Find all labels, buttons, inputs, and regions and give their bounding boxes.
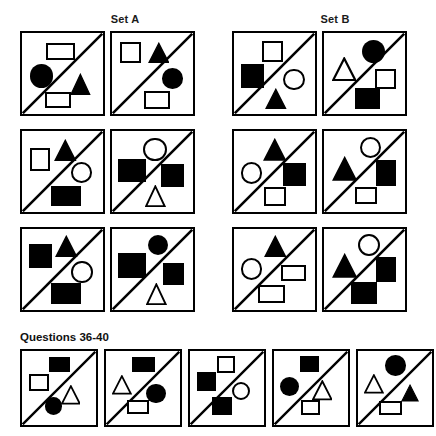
outline-circle-shape xyxy=(360,137,382,159)
panel-set-a-row1-col1[interactable] xyxy=(20,31,105,116)
panel-set-a-row2-col1[interactable] xyxy=(20,129,105,214)
outline-square-shape xyxy=(144,91,170,109)
outline-square-shape xyxy=(262,41,283,62)
outline-square-shape xyxy=(29,374,50,390)
panel-shapes xyxy=(22,131,103,212)
outline-rectangle-shape xyxy=(379,401,401,416)
panel-shapes xyxy=(112,229,193,310)
outline-square-shape xyxy=(301,400,320,415)
outline-square-shape xyxy=(375,69,396,90)
filled-square-shape xyxy=(161,164,184,187)
outline-triangle-shape xyxy=(364,374,384,394)
answer-option-1[interactable] xyxy=(20,349,98,427)
outline-square-shape xyxy=(120,42,141,63)
filled-square-shape xyxy=(283,163,306,186)
filled-square-shape xyxy=(241,64,265,88)
filled-triangle-shape xyxy=(264,235,287,258)
filled-rectangle-shape xyxy=(118,253,146,277)
outline-triangle-shape xyxy=(312,380,333,401)
panel-set-b-row2-col2[interactable] xyxy=(322,129,407,214)
outline-triangle-shape xyxy=(145,185,166,208)
panel-set-b-row3-col1[interactable] xyxy=(232,227,317,312)
filled-square-shape xyxy=(376,160,396,185)
panel-set-b-row1-col1[interactable] xyxy=(232,31,317,116)
filled-triangle-shape xyxy=(332,156,357,181)
outline-square-shape xyxy=(217,356,234,373)
panel-set-b-row2-col1[interactable] xyxy=(232,129,317,214)
panel-shapes xyxy=(234,229,315,310)
outline-circle-shape xyxy=(358,234,381,257)
filled-circle-shape xyxy=(280,377,299,396)
filled-triangle-shape xyxy=(401,384,419,402)
outline-circle-shape xyxy=(241,162,263,184)
filled-circle-shape xyxy=(162,68,183,89)
filled-triangle-shape xyxy=(332,253,357,278)
panel-shapes xyxy=(22,33,103,114)
filled-triangle-shape xyxy=(54,139,77,162)
panel-set-b-row3-col2[interactable] xyxy=(322,227,407,312)
outline-triangle-shape xyxy=(146,283,167,306)
filled-triangle-shape xyxy=(70,73,91,96)
filled-circle-shape xyxy=(146,384,166,404)
panel-shapes xyxy=(324,131,405,212)
filled-triangle-shape xyxy=(148,42,170,64)
answer-option-4[interactable] xyxy=(272,349,350,427)
questions-section-label: Questions 36-40 xyxy=(20,331,109,343)
panel-shapes xyxy=(234,131,315,212)
outline-square-shape xyxy=(264,187,286,206)
filled-square-shape xyxy=(355,88,380,110)
outline-circle-shape xyxy=(241,258,263,280)
outline-square-shape xyxy=(30,148,51,172)
filled-rectangle-shape xyxy=(118,159,146,182)
filled-square-shape xyxy=(197,372,216,391)
filled-rectangle-shape xyxy=(51,186,81,207)
filled-rectangle-shape xyxy=(51,283,81,305)
outline-circle-shape xyxy=(71,261,93,283)
set-a-label: Set A xyxy=(90,13,160,25)
outline-triangle-shape xyxy=(332,57,356,81)
outline-rectangle-shape xyxy=(45,92,71,108)
filled-square-shape xyxy=(300,356,319,372)
panel-shapes xyxy=(234,33,315,114)
panel-set-a-row2-col2[interactable] xyxy=(110,129,195,214)
filled-circle-shape xyxy=(362,40,386,64)
outline-rectangle-shape xyxy=(127,400,149,414)
filled-square-shape xyxy=(351,282,376,305)
panel-shapes xyxy=(22,229,103,310)
panel-shapes xyxy=(358,351,432,425)
filled-circle-shape xyxy=(45,397,62,414)
filled-rectangle-shape xyxy=(49,357,70,372)
panel-shapes xyxy=(106,351,180,425)
filled-rectangle-shape xyxy=(132,357,155,372)
filled-rectangle-shape xyxy=(29,244,53,268)
puzzle-page: Set A Set B Questions 36-40 xyxy=(0,0,436,436)
panel-set-a-row3-col2[interactable] xyxy=(110,227,195,312)
answer-option-3[interactable] xyxy=(188,349,266,427)
panel-shapes xyxy=(324,229,405,310)
panel-shapes xyxy=(324,33,405,114)
panel-set-a-row1-col2[interactable] xyxy=(110,31,195,116)
panel-shapes xyxy=(112,131,193,212)
panel-set-a-row3-col1[interactable] xyxy=(20,227,105,312)
outline-circle-shape xyxy=(71,162,92,183)
outline-square-shape xyxy=(355,187,377,204)
filled-triangle-shape xyxy=(55,235,78,258)
outline-circle-shape xyxy=(232,382,250,400)
outline-rectangle-shape xyxy=(46,43,74,60)
set-b-label: Set B xyxy=(300,13,370,25)
panel-shapes xyxy=(274,351,348,425)
outline-rectangle-shape xyxy=(258,285,284,303)
panel-set-b-row1-col2[interactable] xyxy=(322,31,407,116)
panel-shapes xyxy=(112,33,193,114)
filled-circle-shape xyxy=(30,64,54,88)
panel-shapes xyxy=(190,351,264,425)
filled-circle-shape xyxy=(148,235,169,256)
outline-rectangle-shape xyxy=(281,265,305,281)
outline-triangle-shape xyxy=(61,385,81,405)
answer-option-2[interactable] xyxy=(104,349,182,427)
panel-shapes xyxy=(22,351,96,425)
filled-square-shape xyxy=(212,397,232,414)
filled-square-shape xyxy=(376,257,397,281)
outline-circle-shape xyxy=(143,138,167,162)
answer-option-5[interactable] xyxy=(356,349,434,427)
